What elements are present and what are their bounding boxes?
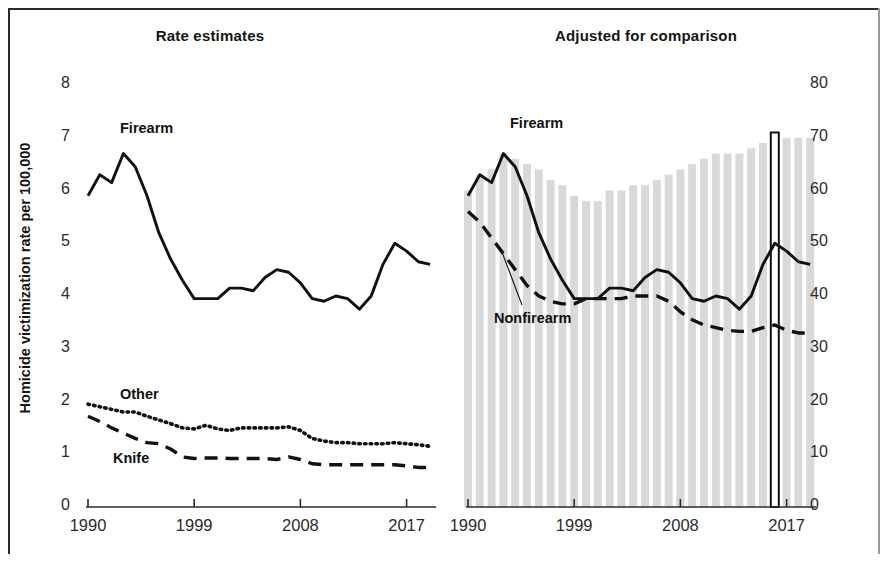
x-tick-label: 1990 bbox=[58, 516, 118, 535]
y-tick-label-right: 40 bbox=[810, 285, 844, 303]
x-tick-label: 1990 bbox=[438, 516, 498, 535]
series-line-firearm bbox=[468, 154, 810, 310]
background-bar bbox=[582, 201, 590, 507]
x-tick-label: 2017 bbox=[757, 516, 817, 535]
series-label-firearm-right: Firearm bbox=[510, 115, 563, 131]
background-bar bbox=[617, 191, 625, 508]
background-bar bbox=[570, 196, 578, 507]
x-tick-label: 1999 bbox=[544, 516, 604, 535]
background-bar bbox=[641, 185, 649, 507]
background-bar bbox=[653, 180, 661, 507]
background-bar bbox=[476, 175, 484, 507]
panel-adjusted-for-comparison: Adjusted for comparison % Firearm homici… bbox=[444, 0, 888, 562]
y-tick-label-left: 1 bbox=[44, 443, 70, 461]
highlight-bar-2016 bbox=[771, 132, 779, 507]
series-line-other bbox=[88, 404, 430, 446]
background-bar bbox=[464, 191, 472, 508]
background-bar bbox=[523, 164, 531, 507]
background-bar bbox=[606, 191, 614, 508]
background-bar bbox=[700, 159, 708, 507]
y-tick-label-left: 2 bbox=[44, 391, 70, 409]
background-bar bbox=[676, 169, 684, 507]
x-tick-label: 2008 bbox=[650, 516, 710, 535]
y-tick-label-left: 0 bbox=[44, 496, 70, 514]
background-bar bbox=[794, 138, 802, 507]
background-bar bbox=[488, 169, 496, 507]
y-tick-label-right: 50 bbox=[810, 232, 844, 250]
figure-root: Rate estimates Homicide victimization ra… bbox=[0, 0, 888, 562]
series-label-knife: Knife bbox=[113, 450, 149, 466]
background-bar bbox=[547, 180, 555, 507]
y-tick-label-right: 70 bbox=[810, 127, 844, 145]
y-tick-label-right: 60 bbox=[810, 180, 844, 198]
background-bar bbox=[712, 154, 720, 507]
x-tick-label: 2008 bbox=[270, 516, 330, 535]
background-bar bbox=[783, 138, 791, 507]
background-bar bbox=[747, 148, 755, 507]
y-tick-label-left: 3 bbox=[44, 338, 70, 356]
y-tick-label-left: 6 bbox=[44, 180, 70, 198]
y-tick-label-right: 20 bbox=[810, 391, 844, 409]
background-bar bbox=[499, 154, 507, 507]
y-tick-label-right: 30 bbox=[810, 338, 844, 356]
background-bar bbox=[594, 201, 602, 507]
y-tick-label-left: 5 bbox=[44, 232, 70, 250]
background-bar bbox=[759, 143, 767, 507]
series-label-nonfirearm: Nonfirearm bbox=[494, 310, 571, 326]
background-bar bbox=[688, 164, 696, 507]
series-line-firearm bbox=[88, 154, 430, 310]
x-tick-label: 1999 bbox=[164, 516, 224, 535]
panel-rate-estimates: Rate estimates Homicide victimization ra… bbox=[0, 0, 444, 562]
series-label-other: Other bbox=[120, 386, 159, 402]
x-tick-label: 2017 bbox=[377, 516, 437, 535]
y-tick-label-left: 8 bbox=[44, 74, 70, 92]
y-tick-label-left: 7 bbox=[44, 127, 70, 145]
background-bar bbox=[629, 185, 637, 507]
background-bar bbox=[511, 159, 519, 507]
background-bar bbox=[724, 154, 732, 507]
series-label-firearm-left: Firearm bbox=[120, 120, 173, 136]
y-tick-label-right: 10 bbox=[810, 443, 844, 461]
y-tick-label-left: 4 bbox=[44, 285, 70, 303]
y-tick-label-right: 0 bbox=[810, 496, 844, 514]
background-bar bbox=[558, 185, 566, 507]
background-bar bbox=[665, 175, 673, 507]
y-tick-label-right: 80 bbox=[810, 74, 844, 92]
